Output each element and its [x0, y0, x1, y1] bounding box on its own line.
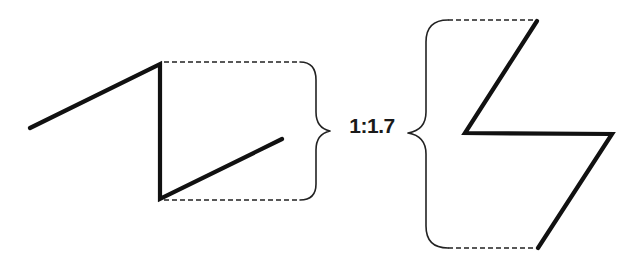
diagram-svg: [0, 0, 627, 263]
left-zigzag-shape: [30, 64, 282, 199]
left-brace-icon: [300, 62, 330, 200]
right-brace-icon: [408, 20, 448, 248]
ratio-label: 1:1.7: [336, 114, 408, 138]
right-zigzag-shape: [465, 21, 612, 248]
ratio-diagram: 1:1.7: [0, 0, 627, 263]
